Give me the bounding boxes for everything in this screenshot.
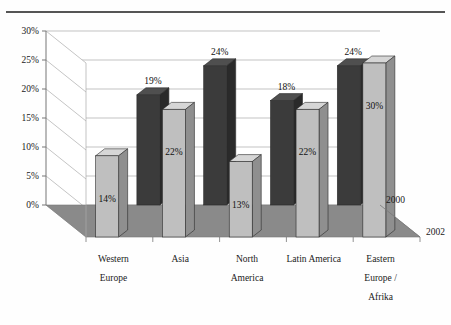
x-axis-category-label: America	[231, 273, 264, 283]
bar-side-face	[386, 56, 395, 237]
bar-side-face	[119, 149, 128, 237]
bar-3d	[229, 155, 261, 237]
x-axis-category-label: Western	[98, 254, 129, 264]
bar-side-face	[252, 155, 261, 237]
y-axis-tick-label: 5%	[26, 171, 39, 181]
bar-side-face	[319, 102, 328, 237]
x-axis-category-label: Latin America	[286, 254, 341, 264]
y-axis-tick-label: 30%	[22, 26, 40, 36]
bar-3d	[162, 102, 194, 237]
chart-page: 0%5%10%15%20%25%30% 14%19%22%24%13%18%22…	[0, 0, 451, 325]
value-label-2002: 14%	[98, 194, 116, 204]
bar-front-face	[363, 63, 386, 237]
bar-front-face	[296, 109, 319, 237]
bar-side-face	[185, 102, 194, 237]
bar-front-face	[337, 66, 360, 205]
bar-front-face	[270, 101, 293, 205]
bar-chart-3d: 0%5%10%15%20%25%30% 14%19%22%24%13%18%22…	[0, 0, 451, 325]
value-label-2000: 19%	[144, 76, 162, 86]
bar-front-face	[204, 66, 227, 205]
x-axis-ticks	[86, 237, 420, 242]
x-axis-category-label: North	[236, 254, 258, 264]
x-axis-category-label: Eastern	[366, 254, 395, 264]
value-label-2002: 22%	[165, 147, 183, 157]
depth-axis-label: 2000	[386, 195, 405, 205]
x-axis-category-label: Afrika	[368, 292, 394, 302]
y-axis-tick-label: 20%	[22, 84, 40, 94]
bar-3d	[296, 102, 328, 237]
value-label-2002: 30%	[366, 101, 384, 111]
y-axis-tick-label: 25%	[22, 55, 40, 65]
x-axis-category-label: Europe	[100, 273, 127, 283]
bar-front-face	[137, 95, 160, 205]
bar-front-face	[162, 109, 185, 237]
y-axis-tick-label: 15%	[22, 113, 40, 123]
x-axis-category-label: Asia	[171, 254, 189, 264]
depth-axis-label: 2002	[426, 227, 445, 237]
bar-3d	[363, 56, 395, 237]
x-axis-category-label: Europe /	[364, 273, 397, 283]
value-label-2000: 18%	[278, 82, 296, 92]
value-label-2002: 22%	[299, 147, 317, 157]
y-axis-tick-label: 10%	[22, 142, 40, 152]
value-label-2002: 13%	[232, 200, 250, 210]
y-axis-ticks: 0%5%10%15%20%25%30%	[22, 26, 46, 210]
y-axis-tick-label: 0%	[26, 200, 39, 210]
value-label-2000: 24%	[211, 47, 229, 57]
x-axis-category-labels: WesternEuropeAsiaNorthAmericaLatin Ameri…	[98, 254, 397, 302]
value-label-2000: 24%	[345, 47, 363, 57]
